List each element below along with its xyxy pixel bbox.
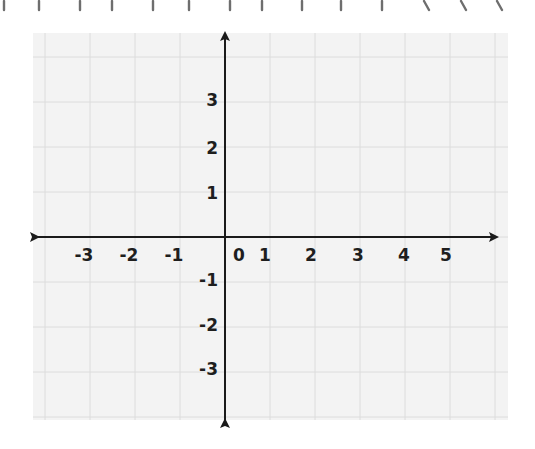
x-axis-label: 2 — [305, 245, 317, 265]
x-axis-label: 3 — [352, 245, 364, 265]
x-axis-label: 4 — [398, 245, 410, 265]
y-axis-label: 3 — [206, 90, 218, 110]
x-axis-label: 1 — [259, 245, 271, 265]
y-axis-label: 2 — [206, 138, 218, 158]
coordinate-plane: -3-2-1012345 321-1-2-3 — [0, 0, 535, 449]
y-axis-label: 1 — [206, 183, 218, 203]
x-axis-label: -2 — [120, 245, 139, 265]
x-axis-label: 5 — [440, 245, 452, 265]
x-axis-label: 0 — [233, 245, 245, 265]
top-tick-mark — [461, 1, 466, 10]
top-tick-mark — [424, 1, 429, 10]
top-tick-mark — [497, 1, 502, 10]
coordinate-plane-figure: -3-2-1012345 321-1-2-3 — [0, 0, 535, 449]
y-axis-label: -2 — [199, 315, 218, 335]
x-axis-label: -3 — [75, 245, 94, 265]
y-axis-label: -3 — [199, 359, 218, 379]
top-tick-marks — [4, 1, 502, 10]
x-axis-label: -1 — [165, 245, 184, 265]
y-axis-label: -1 — [199, 270, 218, 290]
